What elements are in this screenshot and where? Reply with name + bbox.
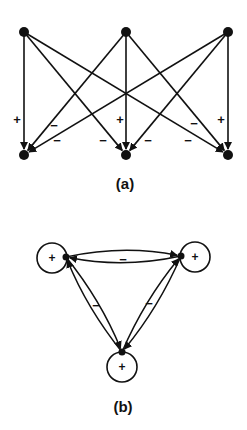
edge-sign-label: − <box>144 133 152 148</box>
edge-sign-label: − <box>145 296 153 311</box>
edge-sign-label: − <box>184 133 192 148</box>
panel-b-triangle-graph: +++−−− <box>37 242 210 382</box>
graph-node <box>121 27 131 37</box>
edge-arrow <box>28 32 126 150</box>
graph-node <box>63 254 70 261</box>
self-loop-sign: + <box>191 250 198 264</box>
edge-sign-label: + <box>116 112 124 127</box>
graph-node <box>223 27 233 37</box>
edge-sign-label: − <box>119 252 127 267</box>
panel-a-bipartite-graph: +−−−+−−−+ <box>13 27 233 160</box>
panel-b-caption: (b) <box>113 398 132 415</box>
self-loop-sign: + <box>48 251 55 265</box>
graph-node <box>223 150 233 160</box>
edge-arrow <box>126 32 224 150</box>
graph-node <box>19 150 29 160</box>
edge-sign-label: + <box>13 112 21 127</box>
graph-node <box>178 253 185 260</box>
diagram-canvas: +−−−+−−−+ +++−−− <box>0 0 247 430</box>
graph-node <box>121 150 131 160</box>
self-loop-sign: + <box>118 360 125 374</box>
graph-node <box>19 27 29 37</box>
panel-a-caption: (a) <box>116 175 134 192</box>
edge-sign-label: − <box>190 116 198 131</box>
edge-sign-label: − <box>50 118 58 133</box>
edge-arrow <box>24 32 122 150</box>
graph-node <box>119 349 126 356</box>
edge-sign-label: − <box>92 298 100 313</box>
edge-sign-label: − <box>99 133 107 148</box>
edge-sign-label: − <box>53 133 61 148</box>
edge-sign-label: + <box>217 112 225 127</box>
